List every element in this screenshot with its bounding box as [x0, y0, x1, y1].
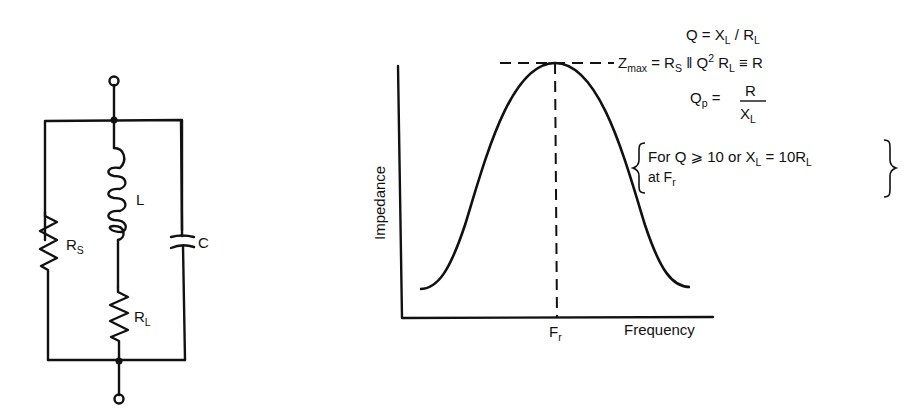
condition-line-2: at Fr	[648, 169, 676, 188]
equation-qp-numerator: R	[745, 82, 756, 99]
circuit-diagram: RS L C RL	[40, 77, 209, 404]
fr-tick-label: Fr	[549, 323, 562, 343]
left-brace-icon	[633, 143, 645, 193]
equations-block: Q = XL / RL Zmax = RS ‖ Q2 RL ≡ R Qp = R…	[618, 26, 896, 197]
resistor-rs-icon	[40, 212, 57, 360]
condition-line-1: For Q ⩾ 10 or XL = 10RL	[648, 148, 812, 168]
fr-dashed-line	[555, 63, 557, 318]
label-l: L	[136, 191, 144, 208]
label-c: C	[198, 234, 209, 251]
equation-qp-denominator: XL	[740, 105, 756, 125]
y-axis-label: Impedance	[371, 166, 388, 240]
equation-zmax: Zmax = RS ‖ Q2 RL ≡ R	[618, 52, 763, 74]
label-rl: RL	[134, 308, 151, 328]
resistor-rl-icon	[110, 287, 128, 360]
figure-canvas: RS L C RL Impedance Frequency Fr Q = XL …	[0, 0, 921, 419]
label-rs: RS	[66, 236, 84, 256]
right-brace-icon	[884, 140, 896, 197]
equation-qp-lhs: Qp =	[690, 89, 721, 109]
capacitor-c-icon	[171, 120, 194, 360]
x-axis-label: Frequency	[624, 321, 695, 338]
equation-q: Q = XL / RL	[686, 26, 760, 46]
impedance-graph: Impedance Frequency Fr	[371, 63, 713, 343]
inductor-l-icon	[108, 120, 125, 287]
